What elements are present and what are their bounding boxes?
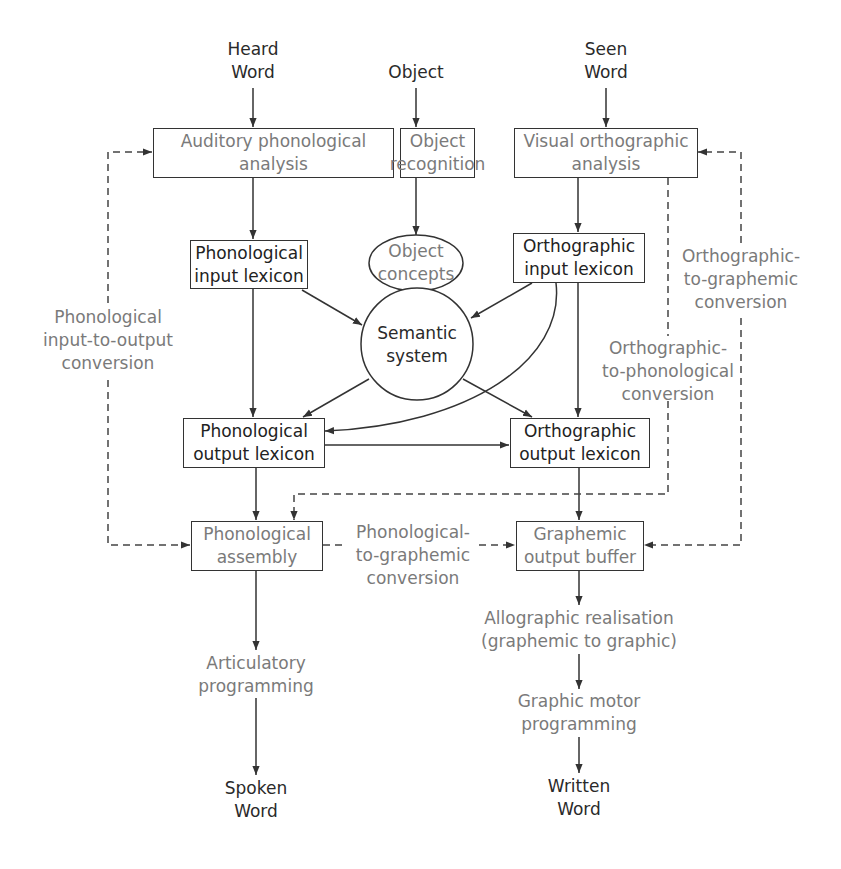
- orthographic-to-graphemic-conversion-label: Orthographic- to-graphemic conversion: [682, 245, 800, 314]
- visual-orthographic-analysis-box: Visual orthographic analysis: [514, 128, 698, 178]
- graphic-motor-programming-label: Graphic motor programming: [518, 690, 641, 736]
- object-label: Object: [388, 61, 443, 84]
- phonological-assembly-box: Phonological assembly: [191, 521, 323, 571]
- phonological-input-lexicon-box: Phonological input lexicon: [190, 240, 308, 289]
- dashed-phon-input-to-output-upper: [108, 152, 152, 303]
- dashed-phon-input-to-output-lower: [108, 380, 190, 545]
- articulatory-programming-label: Articulatory programming: [198, 652, 313, 698]
- written-word-label: Written Word: [548, 775, 610, 821]
- seen-word-label: Seen Word: [584, 38, 628, 84]
- object-concepts-label: Object concepts: [378, 240, 455, 286]
- phonological-to-graphemic-conversion-label: Phonological- to-graphemic conversion: [356, 521, 470, 590]
- heard-word-label: Heard Word: [227, 38, 278, 84]
- phonological-output-lexicon-box: Phonological output lexicon: [183, 418, 325, 468]
- semantic-system-label: Semantic system: [377, 322, 457, 368]
- arrow-oil-to-semantic: [471, 283, 532, 318]
- spoken-word-label: Spoken Word: [225, 777, 287, 823]
- object-recognition-box: Object recognition: [400, 128, 475, 178]
- orthographic-to-phonological-conversion-label: Orthographic- to-phonological conversion: [602, 337, 734, 406]
- orthographic-input-lexicon-box: Orthographic input lexicon: [513, 233, 645, 283]
- graphemic-output-buffer-box: Graphemic output buffer: [516, 521, 644, 571]
- orthographic-output-lexicon-box: Orthographic output lexicon: [510, 418, 650, 468]
- phonological-input-to-output-conversion-label: Phonological input-to-output conversion: [43, 306, 173, 375]
- dashed-orth-to-graph-upper: [698, 152, 741, 243]
- auditory-phonological-analysis-box: Auditory phonological analysis: [153, 128, 394, 178]
- arrow-pil-to-semantic: [302, 290, 362, 325]
- arrow-semantic-to-pol: [303, 379, 369, 417]
- allographic-realisation-label: Allographic realisation (graphemic to gr…: [481, 607, 677, 653]
